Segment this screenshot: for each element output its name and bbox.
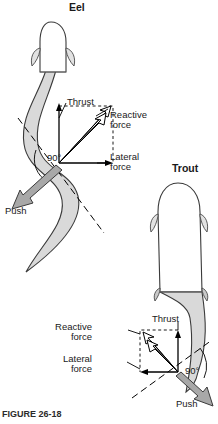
trout-thrust-label: Thrust — [152, 314, 179, 324]
trout-reactive-force-label: Reactive force — [32, 322, 92, 343]
eel-push-label: Push — [5, 206, 27, 216]
trout-push-label: Push — [176, 399, 198, 409]
trout-thrust-arrowhead — [175, 330, 181, 338]
trout-panel-title: Trout — [172, 163, 198, 174]
eel-thrust-label: Thrust — [67, 97, 94, 107]
trout-reactive-force-arrow-secondary — [147, 340, 178, 372]
eel-angle-label: 90° — [47, 153, 61, 163]
eel-body — [23, 22, 78, 272]
eel-lateral-force-label: Lateral force — [110, 152, 139, 173]
eel-push-arrow — [12, 165, 62, 209]
eel-head — [40, 22, 66, 72]
figure-caption: FIGURE 26-18 — [2, 409, 62, 419]
trout-left-pelvic-fin — [154, 288, 160, 301]
eel-reactive-force-label: Reactive force — [110, 110, 147, 131]
trout-angle-label: 90° — [185, 366, 199, 376]
trout-lateral-force-label: Lateral force — [32, 354, 92, 375]
eel-thrust-arrowhead — [56, 103, 62, 111]
figure-locomotion-forces: Eel Thrust Reactive force Lateral force … — [0, 0, 218, 424]
trout-reactive-leader — [128, 330, 140, 334]
trout-head-trunk — [158, 183, 202, 292]
trout-body — [150, 183, 207, 392]
eel-right-fin — [66, 48, 75, 66]
trout-lateral-leader — [127, 362, 140, 369]
trout-left-fin — [150, 214, 158, 232]
eel-left-fin — [31, 48, 40, 66]
trout-right-fin — [200, 214, 208, 232]
eel-panel-title: Eel — [69, 2, 85, 13]
trout-lateral-arrowhead — [140, 369, 148, 375]
